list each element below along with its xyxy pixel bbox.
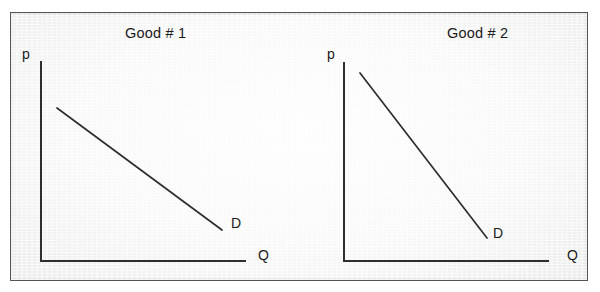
good-1-title: Good # 1 (125, 26, 186, 41)
good-2-curve-label: D (493, 226, 503, 240)
good-1-curve-label: D (231, 216, 241, 230)
good-2-y-axis-label: p (327, 47, 335, 61)
good-2-x-axis-label: Q (567, 248, 578, 262)
good-1-x-axis-label: Q (258, 248, 269, 262)
demand-curves-figure: Good # 1 p Q D Good # 2 p Q D (0, 0, 600, 292)
good-2-title: Good # 2 (447, 26, 508, 41)
good-1-y-axis-label: p (22, 47, 30, 61)
